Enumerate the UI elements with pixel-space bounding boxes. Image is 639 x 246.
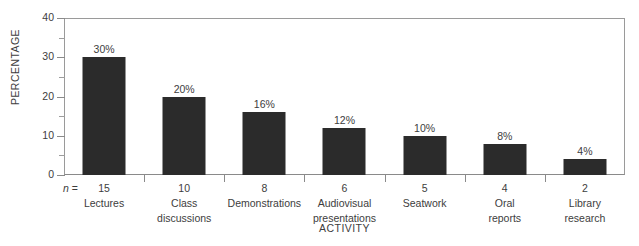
y-tick-label: 0 — [28, 169, 54, 180]
bar — [403, 136, 446, 175]
x-category-label: 2Libraryresearch — [545, 182, 625, 224]
x-separator-tick — [144, 175, 145, 182]
x-category-name-line: Demonstrations — [224, 197, 304, 210]
bar-group: 8% — [465, 18, 545, 175]
x-category-name-line: Class — [144, 197, 224, 210]
x-category-name-line: Oral — [465, 197, 545, 210]
x-separator-tick — [304, 175, 305, 182]
x-category-n-value: 8 — [224, 182, 304, 195]
bar-value-label: 20% — [174, 83, 195, 95]
bar-value-label: 4% — [577, 145, 592, 157]
x-category-n-value: 2 — [545, 182, 625, 195]
x-axis-title-text: ACTIVITY — [319, 222, 370, 234]
bar-value-label: 12% — [334, 114, 355, 126]
bar-group: 30% — [64, 18, 144, 175]
x-category-name-line: Lectures — [64, 197, 144, 210]
x-category-n-value: 4 — [465, 182, 545, 195]
bar — [83, 57, 126, 175]
bar — [483, 144, 526, 175]
bar — [163, 97, 206, 176]
x-category-label: 8Demonstrations — [224, 182, 304, 210]
y-tick-label: 20 — [28, 91, 54, 102]
bars-container: 30%20%16%12%10%8%4% — [64, 18, 625, 175]
x-separator-tick — [545, 175, 546, 182]
bar-group: 16% — [224, 18, 304, 175]
bar-chart-figure: PERCENTAGE 010203040 30%20%16%12%10%8%4%… — [0, 0, 639, 246]
x-category-name-line: Audiovisual — [304, 197, 384, 210]
bar-value-label: 8% — [497, 130, 512, 142]
bar-value-label: 16% — [254, 98, 275, 110]
x-category-n-value: 10 — [144, 182, 224, 195]
x-category-n-value: 5 — [385, 182, 465, 195]
x-category-label: 10Classdiscussions — [144, 182, 224, 224]
bar — [323, 128, 366, 175]
bar — [243, 112, 286, 175]
bar-group: 10% — [385, 18, 465, 175]
x-separator-tick — [465, 175, 466, 182]
y-tick-major — [57, 175, 65, 176]
bar — [563, 159, 606, 175]
y-axis-title: PERCENTAGE — [4, 0, 26, 162]
x-category-n-value: 6 — [304, 182, 384, 195]
bar-group: 4% — [545, 18, 625, 175]
bar-group: 12% — [304, 18, 384, 175]
y-tick-label: 10 — [28, 130, 54, 141]
x-category-n-value: 15 — [64, 182, 144, 195]
y-tick-label: 40 — [28, 12, 54, 23]
y-axis-tick-labels: 010203040 — [26, 0, 54, 246]
x-separator-tick — [385, 175, 386, 182]
x-category-label: 15Lectures — [64, 182, 144, 210]
x-category-name-line: Library — [545, 197, 625, 210]
x-category-label: 5Seatwork — [385, 182, 465, 210]
x-separator-tick — [224, 175, 225, 182]
bar-group: 20% — [144, 18, 224, 175]
x-category-label: 4Oralreports — [465, 182, 545, 224]
bar-value-label: 30% — [94, 43, 115, 55]
x-category-label: 6Audiovisualpresentations — [304, 182, 384, 224]
y-tick-label: 30 — [28, 51, 54, 62]
x-category-name-line: Seatwork — [385, 197, 465, 210]
bar-value-label: 10% — [414, 122, 435, 134]
x-axis-title: ACTIVITY — [0, 222, 639, 234]
